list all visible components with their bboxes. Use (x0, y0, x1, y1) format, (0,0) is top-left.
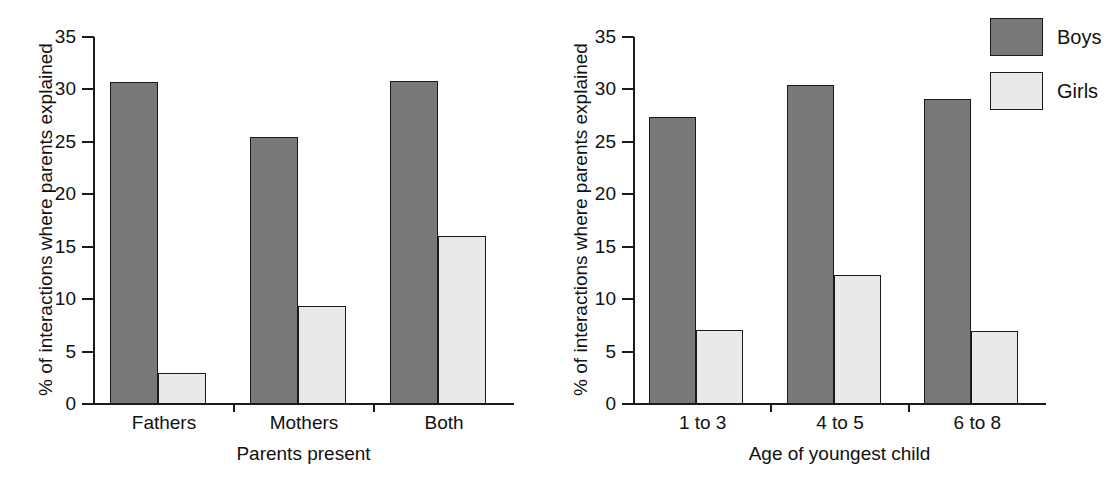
legend-label-girls: Girls (1057, 81, 1098, 101)
y-axis-tick (82, 193, 94, 195)
y-axis-tick-label-text: 10 (576, 289, 616, 308)
y-axis-tick (622, 36, 634, 38)
legend-entry-boys: Boys (990, 14, 1115, 60)
y-axis-tick-label: 5 (570, 342, 616, 361)
y-axis-tick-label: 5 (30, 342, 76, 361)
x-axis-category-label: Both (374, 412, 514, 434)
y-axis-tick-label: 25 (570, 132, 616, 151)
y-axis-tick-label: 0 (30, 394, 76, 413)
x-axis-category-label: 1 to 3 (634, 412, 771, 434)
y-axis-tick (82, 36, 94, 38)
y-axis-tick-label-text: 35 (36, 27, 76, 46)
y-axis-tick-label: 10 (30, 289, 76, 308)
y-axis-tick-label: 20 (570, 184, 616, 203)
y-axis-tick-label-text: 10 (36, 289, 76, 308)
bar-girls-4-to-5 (834, 275, 881, 404)
plot-area-right (634, 37, 1046, 404)
y-axis-tick (622, 403, 634, 405)
x-axis-category-label: 6 to 8 (909, 412, 1046, 434)
bar-boys-fathers (110, 82, 158, 404)
y-axis-tick (622, 141, 634, 143)
x-axis-group-divider (373, 403, 375, 412)
bar-girls-6-to-8 (971, 331, 1018, 404)
chart-legend: Boys Girls (990, 14, 1115, 122)
y-axis-tick-label-text: 0 (36, 394, 76, 413)
y-axis-tick (622, 193, 634, 195)
y-axis-tick-label-text: 30 (36, 79, 76, 98)
legend-swatch-boys-icon (990, 18, 1043, 56)
y-axis-tick-label: 25 (30, 132, 76, 151)
chart-panel-parents-present: % of interactions where parents explaine… (0, 0, 560, 481)
y-axis-tick (82, 141, 94, 143)
x-axis-title-right: Age of youngest child (633, 443, 1046, 465)
bar-boys-mothers (250, 137, 298, 404)
y-axis-tick-label: 30 (30, 79, 76, 98)
x-axis-title-left: Parents present (93, 443, 514, 465)
y-axis-tick (622, 298, 634, 300)
y-axis-tick-label-text: 15 (36, 237, 76, 256)
x-axis-category-label: Mothers (234, 412, 374, 434)
y-axis-tick (82, 298, 94, 300)
y-axis-tick-label: 10 (570, 289, 616, 308)
bar-girls-both (438, 236, 486, 404)
x-axis-category-label: 4 to 5 (771, 412, 908, 434)
bar-chart-figure: % of interactions where parents explaine… (0, 0, 1115, 481)
y-axis-tick-label-text: 30 (576, 79, 616, 98)
x-axis-category-label: Fathers (94, 412, 234, 434)
y-axis-tick-label: 35 (30, 27, 76, 46)
y-axis-tick-label-text: 0 (576, 394, 616, 413)
y-axis-tick-label-text: 15 (576, 237, 616, 256)
y-axis-tick (622, 246, 634, 248)
y-axis-tick-label: 30 (570, 79, 616, 98)
y-axis-tick (82, 246, 94, 248)
bar-boys-4-to-5 (787, 85, 834, 404)
y-axis-tick-label: 20 (30, 184, 76, 203)
legend-swatch-girls-icon (990, 72, 1043, 110)
x-axis-group-divider (770, 403, 772, 412)
x-axis-group-divider (908, 403, 910, 412)
y-axis-tick-label: 0 (570, 394, 616, 413)
bar-boys-6-to-8 (924, 99, 971, 404)
x-axis-group-divider (233, 403, 235, 412)
y-axis-tick-label-text: 25 (576, 132, 616, 151)
y-axis-tick-label: 35 (570, 27, 616, 46)
y-axis-tick-label-text: 5 (36, 342, 76, 361)
y-axis-tick-label: 15 (570, 237, 616, 256)
bar-boys-both (390, 81, 438, 404)
plot-area-left (94, 37, 514, 404)
y-axis-tick-label: 15 (30, 237, 76, 256)
legend-label-boys: Boys (1057, 27, 1101, 47)
y-axis-tick (622, 88, 634, 90)
bar-girls-mothers (298, 306, 346, 404)
y-axis-tick-label-text: 20 (576, 184, 616, 203)
bar-boys-1-to-3 (649, 117, 696, 404)
y-axis-tick (82, 403, 94, 405)
legend-entry-girls: Girls (990, 68, 1115, 114)
y-axis-tick (82, 88, 94, 90)
y-axis-tick-label-text: 5 (576, 342, 616, 361)
bar-girls-1-to-3 (696, 330, 743, 404)
y-axis-tick-label-text: 25 (36, 132, 76, 151)
y-axis-tick-label-text: 35 (576, 27, 616, 46)
y-axis-tick-label-text: 20 (36, 184, 76, 203)
bar-girls-fathers (158, 373, 206, 404)
y-axis-tick (82, 351, 94, 353)
y-axis-tick (622, 351, 634, 353)
